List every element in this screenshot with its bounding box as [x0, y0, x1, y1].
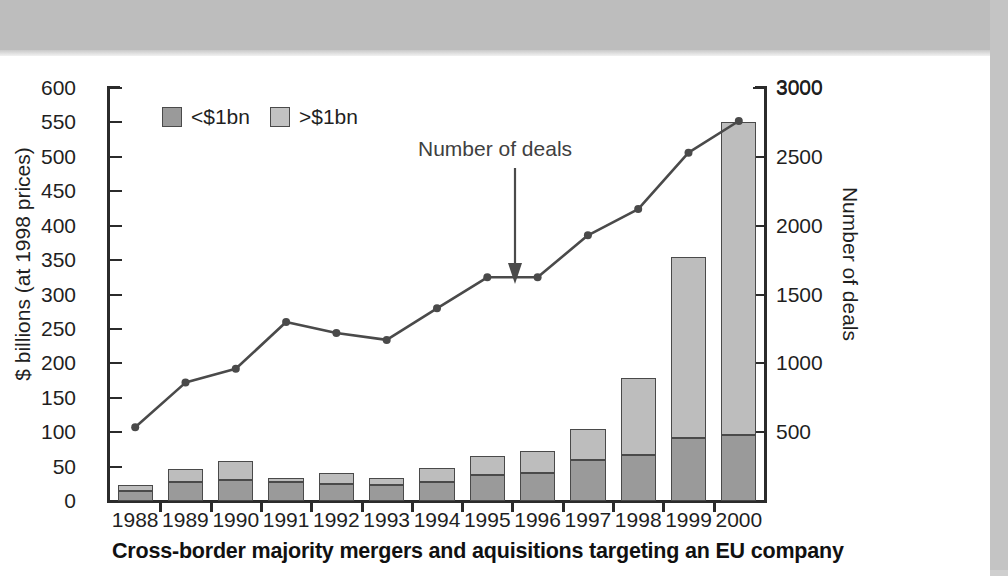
scan-edge-top: [0, 0, 1008, 56]
legend-label-large-deals: >$1bn: [299, 105, 358, 129]
line-marker-1988: [131, 423, 139, 431]
line-marker-1993: [383, 336, 391, 344]
line-marker-2000: [735, 117, 743, 125]
scan-edge-right: [990, 0, 1008, 576]
legend-swatch-small-deals: [162, 107, 182, 127]
chart-caption: Cross-border majority mergers and aquisi…: [112, 539, 844, 564]
line-marker-1989: [182, 379, 190, 387]
line-marker-1998: [634, 205, 642, 213]
line-marker-1997: [584, 231, 592, 239]
chart-legend: <$1bn >$1bn: [162, 105, 369, 129]
chart-figure: 050100150200250300350400450500550600 500…: [0, 56, 990, 576]
line-marker-1994: [433, 304, 441, 312]
line-marker-1996: [534, 273, 542, 281]
legend-label-small-deals: <$1bn: [191, 105, 250, 129]
line-marker-1992: [332, 329, 340, 337]
line-marker-1999: [685, 149, 693, 157]
line-series-number-of-deals: [0, 56, 990, 526]
legend-swatch-large-deals: [270, 107, 290, 127]
annotation-number-of-deals: Number of deals: [418, 137, 572, 161]
annotation-arrow-icon: [505, 168, 525, 286]
line-marker-1995: [483, 273, 491, 281]
line-marker-1990: [232, 365, 240, 373]
line-marker-1991: [282, 318, 290, 326]
